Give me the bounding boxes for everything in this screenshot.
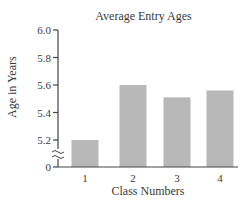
y-tick-label: 5.4 — [37, 107, 51, 119]
y-tick-label: 5.6 — [37, 79, 51, 91]
x-tick-label: 3 — [174, 172, 180, 184]
x-tick-label: 1 — [82, 172, 88, 184]
bar-class-1 — [72, 140, 99, 167]
y-tick-label: 5.8 — [37, 52, 51, 64]
x-tick-label: 4 — [217, 172, 223, 184]
axis-break-icon — [52, 151, 64, 159]
y-tick-label: 0 — [46, 161, 52, 173]
y-tick-label: 6.0 — [37, 24, 51, 36]
bar-class-3 — [164, 97, 191, 167]
x-tick-label: 2 — [130, 172, 136, 184]
bar-class-4 — [207, 91, 234, 168]
bar-class-2 — [120, 85, 147, 167]
bar-chart: 123405.25.45.65.86.0 — [0, 0, 247, 206]
y-tick-label: 5.2 — [37, 134, 51, 146]
